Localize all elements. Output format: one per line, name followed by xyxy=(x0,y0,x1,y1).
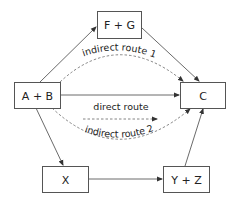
reaction-route-diagram: indirect route 1 direct route indirect r… xyxy=(0,0,233,203)
node-ab: A + B xyxy=(15,83,61,109)
node-c: C xyxy=(181,83,226,109)
edge-ab-x xyxy=(36,108,63,165)
node-x-label: X xyxy=(62,174,70,187)
direct-route-label: direct route xyxy=(93,101,148,112)
node-ab-label: A + B xyxy=(22,90,53,103)
indirect-route-1-label: indirect route 1 xyxy=(81,41,158,59)
node-fg: F + G xyxy=(98,12,142,39)
node-c-label: C xyxy=(199,90,207,103)
node-x: X xyxy=(43,167,89,193)
edge-yz-c xyxy=(185,109,203,166)
node-fg-label: F + G xyxy=(104,19,135,32)
node-yz: Y + Z xyxy=(164,167,210,193)
indirect-route-1-arc xyxy=(60,55,183,82)
node-yz-label: Y + Z xyxy=(170,174,202,187)
indirect-route-2-label: indirect route 2 xyxy=(84,122,155,139)
